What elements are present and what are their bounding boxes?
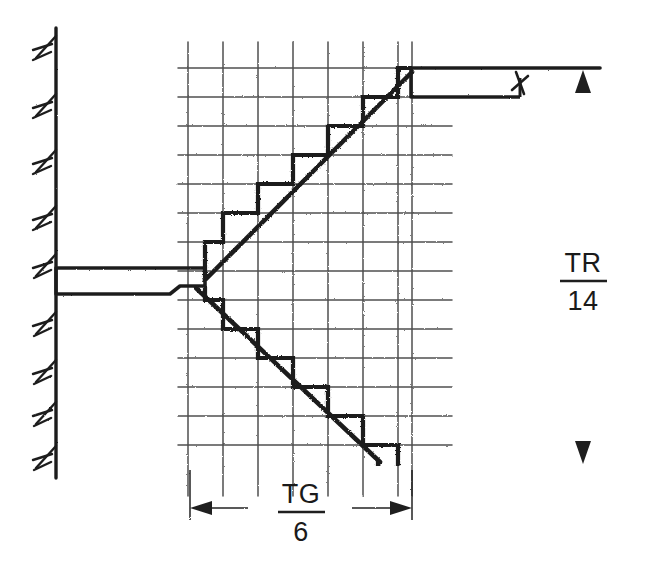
total-rise-numerator: TR bbox=[565, 248, 602, 278]
canvas-background bbox=[0, 0, 660, 566]
diagram-canvas: TR 14 TG 6 bbox=[0, 0, 660, 566]
stair-section-drawing: TR 14 TG 6 bbox=[0, 0, 660, 566]
total-rise-denominator: 14 bbox=[567, 286, 598, 316]
total-going-denominator: 6 bbox=[293, 517, 309, 547]
total-going-numerator: TG bbox=[282, 479, 321, 509]
